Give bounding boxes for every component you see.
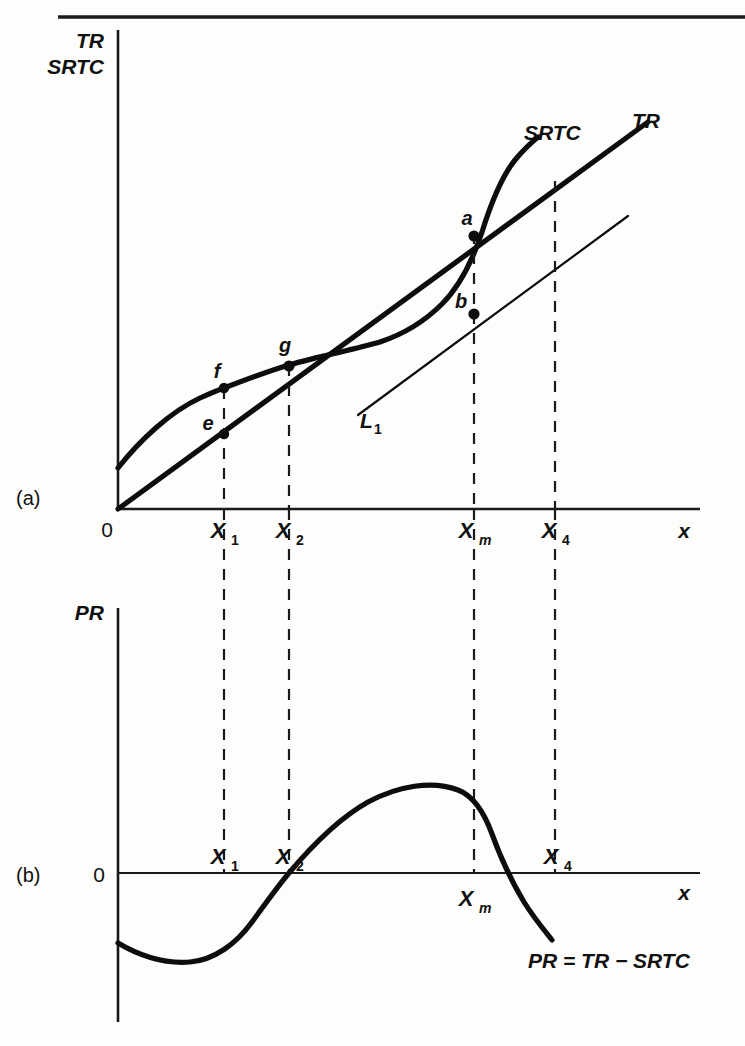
panel-b-origin-label: 0 — [93, 863, 105, 886]
point-label-e: e — [202, 412, 213, 434]
panel-a-x-axis-label: x — [677, 519, 691, 542]
panel-b-y-axis-label: PR — [75, 601, 105, 624]
economics-figure: TR SRTC SRTC TR L 1 a b e f g 0 X 1 X 2 … — [0, 0, 745, 1046]
panel-b-xtick-x2-sub: 2 — [296, 858, 304, 874]
panel-b-xtick-x4-sub: 4 — [564, 858, 572, 874]
panel-b-xtick-xm-sub: m — [479, 900, 491, 916]
tangent-line-L1 — [358, 216, 628, 415]
panel-b-xtick-xm: X — [457, 886, 475, 911]
figure-canvas: TR SRTC SRTC TR L 1 a b e f g 0 X 1 X 2 … — [0, 0, 745, 1046]
panel-b-label: (b) — [16, 864, 40, 886]
panel-a-y-axis-label-tr: TR — [76, 29, 105, 52]
panel-a: TR SRTC SRTC TR L 1 a b e f g 0 X 1 X 2 … — [16, 29, 700, 548]
point-marker-b — [468, 308, 479, 319]
panel-b-xtick-x1: X — [209, 844, 227, 869]
point-label-f: f — [214, 360, 223, 382]
panel-connectors — [224, 509, 555, 873]
panel-b-xtick-x2: X — [274, 844, 292, 869]
panel-a-xtick-xm-sub: m — [479, 532, 491, 548]
panel-b-xtick-x4: X — [542, 844, 560, 869]
panel-a-xtick-x2-sub: 2 — [296, 532, 304, 548]
panel-b-xtick-x1-sub: 1 — [231, 858, 239, 874]
srtc-curve-label: SRTC — [524, 121, 582, 144]
point-marker-g — [283, 360, 294, 371]
point-label-g: g — [278, 334, 291, 356]
point-label-a: a — [461, 207, 472, 229]
panel-a-xtick-x4-sub: 4 — [562, 532, 570, 548]
point-marker-a — [468, 230, 479, 241]
panel-a-xtick-x1-sub: 1 — [231, 532, 239, 548]
panel-a-y-axis-label-srtc: SRTC — [47, 55, 105, 78]
panel-a-xtick-xm: X — [457, 518, 475, 543]
point-marker-f — [219, 383, 229, 393]
pr-equation-label: PR = TR − SRTC — [528, 949, 691, 972]
tangent-line-label: L — [360, 409, 373, 432]
tangent-line-label-subscript: 1 — [374, 421, 382, 437]
point-label-b: b — [455, 290, 467, 312]
panel-a-label: (a) — [16, 487, 40, 509]
panel-b: PR 0 X 1 X 2 X m X 4 x PR = TR − SRTC (b… — [16, 601, 700, 1022]
tr-line — [118, 122, 648, 509]
point-marker-e — [219, 429, 229, 439]
tr-line-label: TR — [632, 109, 661, 132]
panel-b-x-axis-label: x — [677, 881, 691, 904]
panel-a-origin-label: 0 — [101, 518, 113, 541]
